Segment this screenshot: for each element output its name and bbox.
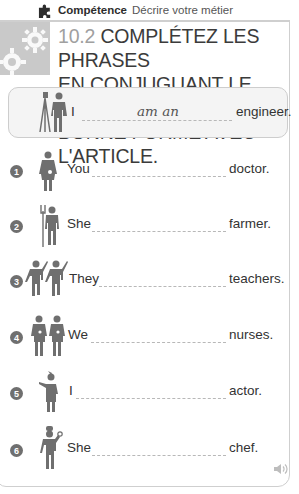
item-pronoun: She — [67, 440, 91, 455]
competence-header: Compétence Décrire votre métier — [38, 1, 233, 19]
doctor-figure-icon — [36, 150, 60, 192]
farmer-figure-icon — [38, 203, 62, 247]
exercise-item-2: 2 She farmer. — [0, 205, 290, 245]
exercise-item-5: 5 I actor. — [0, 372, 290, 412]
item-number-badge: 6 — [10, 444, 23, 457]
item-pronoun: I — [69, 383, 73, 398]
exercise-item-3: 3 They teachers. — [0, 260, 290, 300]
answer-blank[interactable] — [76, 398, 226, 399]
exercise-tab — [0, 22, 50, 75]
item-pronoun: We — [68, 327, 88, 342]
item-number-badge: 4 — [10, 331, 23, 344]
example-box: I am an engineer. — [8, 87, 288, 138]
item-ending: farmer. — [229, 216, 271, 231]
gears-icon — [0, 22, 50, 75]
item-number-badge: 1 — [10, 165, 23, 178]
item-number-badge: 5 — [10, 387, 23, 400]
competence-description: Décrire votre métier — [132, 4, 233, 16]
exercise-item-1: 1 You doctor. — [0, 150, 290, 190]
answer-blank[interactable] — [91, 342, 226, 343]
example-pronoun: I — [71, 104, 75, 119]
item-pronoun: She — [67, 216, 91, 231]
answer-blank[interactable] — [92, 231, 226, 232]
teachers-figure-icon — [24, 258, 72, 302]
example-ending: engineer. — [236, 104, 292, 119]
engineer-figure-icon — [39, 90, 71, 134]
exercise-number: 10.2 — [58, 25, 95, 47]
exercise-item-6: 6 She chef. — [0, 429, 290, 469]
item-ending: teachers. — [229, 271, 285, 286]
puzzle-icon — [38, 3, 53, 18]
example-answer: am an — [137, 103, 179, 119]
chef-figure-icon — [38, 425, 64, 471]
nurses-figure-icon — [30, 314, 68, 358]
answer-blank[interactable] — [92, 455, 226, 456]
item-pronoun: They — [69, 271, 99, 286]
item-ending: nurses. — [229, 327, 273, 342]
actor-figure-icon — [38, 370, 62, 414]
answer-blank[interactable] — [99, 286, 226, 287]
item-ending: chef. — [229, 440, 258, 455]
example-blank — [82, 120, 232, 121]
item-ending: doctor. — [229, 161, 270, 176]
speaker-icon[interactable] — [273, 462, 289, 476]
competence-label: Compétence — [58, 4, 127, 16]
item-ending: actor. — [229, 383, 262, 398]
exercise-item-4: 4 We nurses. — [0, 316, 290, 356]
answer-blank[interactable] — [92, 176, 226, 177]
item-number-badge: 2 — [10, 220, 23, 233]
item-pronoun: You — [67, 161, 90, 176]
item-number-badge: 3 — [10, 275, 23, 288]
